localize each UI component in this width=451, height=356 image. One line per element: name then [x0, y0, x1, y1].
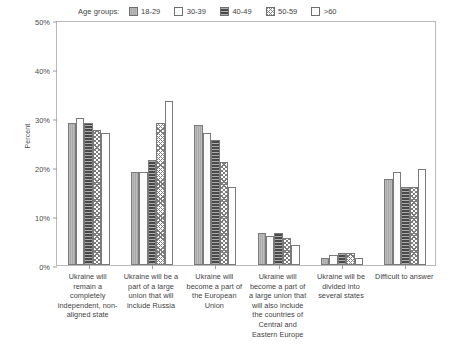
x-category-label: Ukraine will become a part of a large un…	[247, 272, 308, 339]
y-tick-mark	[53, 169, 57, 170]
bar-5059-cat3	[220, 162, 228, 265]
x-category-label: Ukraine will become a part of the Europe…	[184, 272, 245, 310]
legend-entry-60[interactable]: >60	[311, 7, 336, 16]
y-tick-mark	[53, 120, 57, 121]
legend-label: 30-39	[187, 7, 206, 16]
bar-1829-cat2	[131, 172, 139, 265]
legend-entry-3039[interactable]: 30-39	[174, 7, 206, 16]
y-axis-label: Percent	[24, 106, 31, 166]
x-category-label: Ukraine will remain a completely indepen…	[57, 272, 118, 320]
bar-5059-cat1	[93, 130, 101, 265]
x-tick-mark	[405, 265, 406, 269]
bar-60-cat3	[228, 187, 236, 265]
x-category-label: Ukraine will be a part of a large union …	[120, 272, 181, 310]
bar-5059-cat5	[346, 253, 354, 265]
x-tick-mark	[152, 265, 153, 269]
bar-4049-cat2	[148, 160, 156, 265]
legend-swatch-icon	[174, 7, 183, 16]
legend-label: 50-59	[278, 7, 297, 16]
bar-3039-cat1	[76, 118, 84, 265]
bar-4049-cat4	[274, 233, 282, 265]
bar-3039-cat2	[139, 172, 147, 265]
legend: Age groups: 18-2930-3940-4950-59>60	[78, 7, 337, 16]
x-tick-mark	[215, 265, 216, 269]
bar-4049-cat6	[401, 187, 409, 265]
bar-5059-cat2	[156, 123, 164, 265]
y-tick-mark	[53, 22, 57, 23]
x-category-label: Difficult to answer	[374, 272, 435, 282]
bar-3039-cat4	[266, 236, 274, 265]
y-tick-mark	[53, 218, 57, 219]
y-tick-mark	[53, 71, 57, 72]
bar-1829-cat6	[384, 179, 392, 265]
bar-60-cat1	[101, 133, 109, 265]
bar-4049-cat1	[84, 123, 92, 265]
legend-title: Age groups:	[78, 7, 120, 16]
legend-entry-5059[interactable]: 50-59	[266, 7, 298, 16]
legend-swatch-icon	[129, 7, 138, 16]
bar-1829-cat5	[321, 258, 329, 265]
legend-entry-4049[interactable]: 40-49	[220, 7, 252, 16]
bar-chart-figure: Percent 0%10%20%30%40%50% Age groups: 18…	[0, 0, 451, 356]
bar-3039-cat5	[329, 255, 337, 265]
bar-1829-cat3	[194, 125, 202, 265]
legend-swatch-icon	[220, 7, 229, 16]
bar-60-cat2	[165, 101, 173, 265]
legend-swatch-icon	[311, 7, 320, 16]
bar-60-cat6	[418, 169, 426, 265]
legend-swatch-icon	[266, 7, 275, 16]
legend-label: 40-49	[232, 7, 251, 16]
bar-3039-cat3	[203, 133, 211, 265]
plot-area: 0%10%20%30%40%50%	[56, 21, 436, 266]
x-tick-mark	[279, 265, 280, 269]
x-category-label: Ukraine will be divided into several sta…	[310, 272, 371, 301]
legend-entry-1829[interactable]: 18-29	[129, 7, 161, 16]
bar-60-cat4	[291, 245, 299, 265]
bar-4049-cat5	[338, 253, 346, 265]
x-tick-mark	[342, 265, 343, 269]
y-tick-mark	[53, 267, 57, 268]
x-tick-mark	[89, 265, 90, 269]
bar-5059-cat4	[283, 238, 291, 265]
bar-3039-cat6	[393, 172, 401, 265]
bar-4049-cat3	[211, 140, 219, 265]
bar-1829-cat1	[68, 123, 76, 265]
bar-1829-cat4	[258, 233, 266, 265]
bar-60-cat5	[355, 258, 363, 265]
legend-label: 18-29	[141, 7, 160, 16]
legend-label: >60	[324, 7, 337, 16]
bar-5059-cat6	[410, 187, 418, 265]
